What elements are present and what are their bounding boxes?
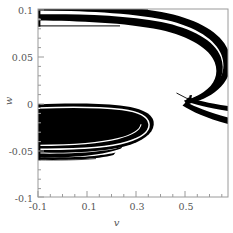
- region-upper-speckle-bottom: [38, 25, 120, 26]
- region-upper-speckle-top: [38, 9, 148, 10]
- plot-area: [0, 0, 233, 233]
- figure-container: 0.1 0.05 0 -0.05 -0.1 -0.1 0.1 0.3 0.5 v…: [0, 0, 233, 233]
